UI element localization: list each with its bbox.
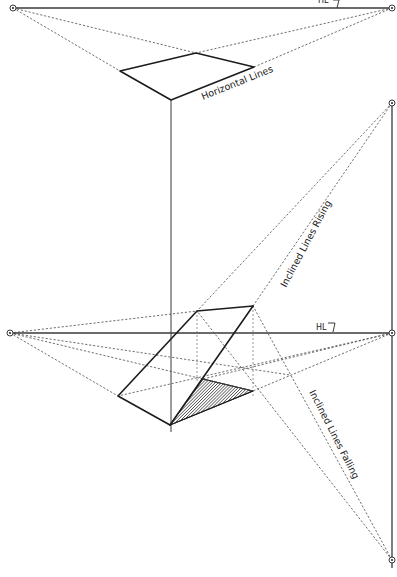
shaded-plane <box>170 379 253 425</box>
construction-line <box>10 311 197 333</box>
vanishing-point-icon <box>7 330 13 336</box>
inclined-falling-label: Inclined Lines Falling <box>307 388 361 481</box>
mid-horizon-label: HL <box>316 323 327 332</box>
construction-line <box>10 333 118 396</box>
construction-line <box>254 8 392 67</box>
horizontal-lines-label: Horizontal Lines <box>200 63 275 102</box>
top-horizon-label: HL <box>318 0 329 5</box>
construction-line <box>13 8 196 53</box>
vanishing-point-icon <box>389 100 395 106</box>
construction-line <box>118 333 392 396</box>
inclined-rising-label: Inclined Lines Rising <box>278 198 333 289</box>
inclined-falling-line <box>253 306 392 560</box>
construction-line <box>13 8 120 71</box>
perspective-diagram: HL Horizontal Lines HL <box>0 0 397 577</box>
horizontal-plane-shape <box>120 53 254 100</box>
vanishing-point-icon <box>10 5 16 11</box>
top-horizon-group: HL Horizontal Lines <box>10 0 395 102</box>
vanishing-point-icon <box>389 5 395 11</box>
vanishing-point-icon <box>389 557 395 563</box>
construction-line <box>203 333 392 379</box>
construction-line <box>10 333 290 375</box>
inclined-rising-line <box>197 103 392 311</box>
mid-horizon-label-arrow <box>328 323 335 332</box>
inclined-falling-line <box>197 311 392 560</box>
vanishing-point-icon <box>389 330 395 336</box>
mid-horizon-group: HL <box>7 100 395 563</box>
construction-line <box>196 8 392 53</box>
top-horizon-label-arrow <box>333 0 339 8</box>
